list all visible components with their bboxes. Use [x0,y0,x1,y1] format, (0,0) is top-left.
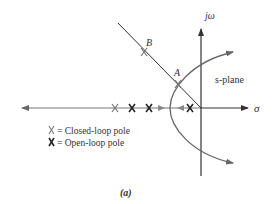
point-a-label: A [173,67,181,78]
s-plane-label: s-plane [215,74,244,85]
open-loop-pole-legend-icon [49,138,54,146]
point-b-label: B [146,37,152,48]
root-locus-diagram: B A jω σ s-plane = Closed-loop pole = Op… [0,0,279,204]
closed-loop-pole-legend-icon [49,126,54,134]
closed-loop-legend-text: = Closed-loop pole [57,126,130,136]
locus-arrow-right-icon [158,105,165,111]
imaginary-axis-label: jω [203,10,215,21]
locus-arrow-left-icon [177,105,184,111]
open-loop-legend-text: = Open-loop pole [57,138,124,148]
legend: = Closed-loop pole = Open-loop pole [49,126,130,148]
damping-line [118,23,201,108]
real-axis [22,105,248,111]
real-axis-label: σ [254,102,260,114]
figure-caption: (a) [120,187,132,199]
point-a-marker [175,80,181,88]
